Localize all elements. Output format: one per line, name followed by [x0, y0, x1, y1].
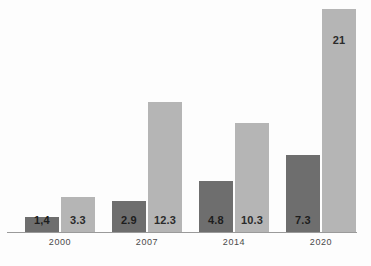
plot-area: 1,4 3.3 2.9 12.3 4.8 10.3 7.3 21	[0, 0, 371, 233]
bar-value-label: 7.3	[286, 215, 320, 226]
bar-2014-dark: 4.8	[199, 181, 233, 232]
bar-2014-light: 10.3	[235, 123, 269, 232]
x-tick-2000: 2000	[20, 238, 100, 247]
x-axis-tick-labels: 2000 2007 2014 2020	[0, 238, 371, 254]
bar-value-label: 21	[322, 35, 356, 46]
bar-2000-dark: 1,4	[25, 217, 59, 232]
x-tick-2014: 2014	[194, 238, 274, 247]
bar-value-label: 1,4	[25, 215, 59, 226]
x-axis-line	[7, 232, 357, 233]
x-tick-2007: 2007	[107, 238, 187, 247]
bar-2020-dark: 7.3	[286, 155, 320, 232]
bar-value-label: 4.8	[199, 215, 233, 226]
bar-value-label: 3.3	[61, 215, 95, 226]
x-tick-2020: 2020	[281, 238, 361, 247]
bar-2000-light: 3.3	[61, 197, 95, 232]
bar-2007-light: 12.3	[148, 102, 182, 232]
bar-chart: 1,4 3.3 2.9 12.3 4.8 10.3 7.3 21 2000 20…	[0, 0, 371, 266]
bar-value-label: 10.3	[235, 215, 269, 226]
bar-value-label: 2.9	[112, 215, 146, 226]
bar-2020-light: 21	[322, 9, 356, 232]
bar-value-label: 12.3	[148, 215, 182, 226]
bar-2007-dark: 2.9	[112, 201, 146, 232]
